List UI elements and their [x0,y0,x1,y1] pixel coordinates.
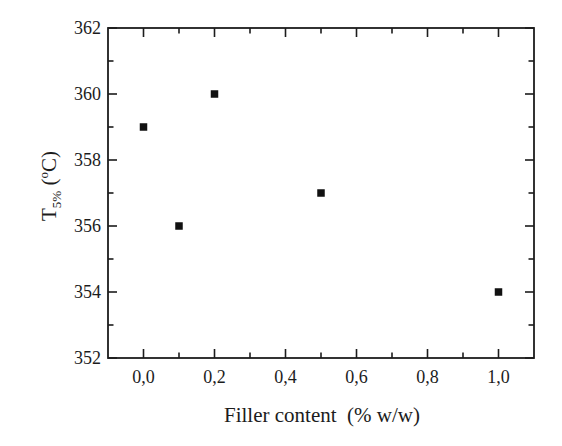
x-tick-label: 1,0 [487,367,510,387]
y-axis-title-part: 5% [49,191,64,209]
y-tick-label: 356 [74,216,101,236]
y-axis-title-part: ( [37,179,61,191]
y-tick-label: 354 [74,282,101,302]
y-tick-label: 360 [74,84,101,104]
x-axis-title: Filler content (% w/w) [224,403,420,427]
x-tick-label: 0,0 [132,367,155,387]
x-tick-label: 0,8 [416,367,439,387]
tga-scatter-figure: 0,00,20,40,60,81,0352354356358360362Fill… [0,0,562,446]
y-tick-label: 352 [74,348,101,368]
data-point [175,222,183,230]
data-point [317,189,325,197]
y-tick-label: 362 [74,18,101,38]
x-tick-label: 0,4 [274,367,297,387]
x-tick-label: 0,6 [345,367,368,387]
data-point [495,288,503,296]
chart-canvas: 0,00,20,40,60,81,0352354356358360362Fill… [0,0,562,446]
data-point [211,90,219,98]
y-axis-title-part: T [37,208,61,221]
y-axis-title: T5% (oC) [36,151,64,221]
data-point [140,123,148,131]
x-tick-label: 0,2 [203,367,226,387]
y-axis-title-part: C) [37,151,61,172]
y-tick-label: 358 [74,150,101,170]
